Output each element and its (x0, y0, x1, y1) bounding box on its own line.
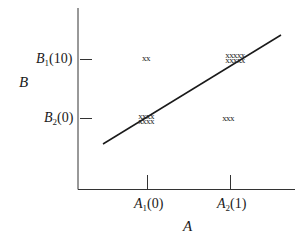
regression-line (103, 35, 281, 144)
diagram: B1(10) B2(0) B A1(0) A2(1) A xx xxxxx xx… (0, 0, 308, 241)
cluster-a2-b1: xxxxx xxxxx (222, 53, 248, 63)
x-tick-label-a1: A1(0) (134, 197, 163, 213)
x-tick-label-a2: A2(1) (217, 197, 246, 213)
cluster-a1-b1: xx (138, 56, 154, 61)
y-tick-label-b2: B2(0) (44, 111, 73, 127)
x-axis-title: A (183, 219, 192, 234)
cluster-a2-b2: xxx (219, 116, 237, 121)
y-tick-label-b1: B1(10) (36, 52, 72, 68)
cluster-a1-b2: xxxx xxxx (136, 114, 156, 124)
y-axis-title: B (19, 75, 28, 90)
